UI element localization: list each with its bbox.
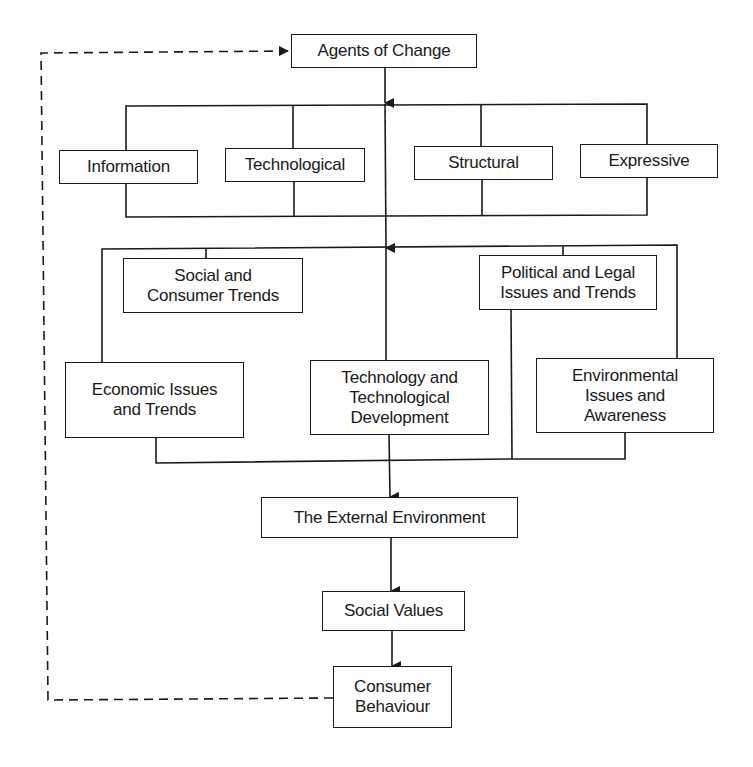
node-technology-development: Technology and Technological Development [310,360,489,435]
arrow-factors-to-external [389,434,390,497]
node-social-values: Social Values [322,591,465,631]
types-bracket-top [126,104,647,150]
arrow-types-to-factors [385,104,386,248]
node-social-consumer-trends: Social and Consumer Trends [123,258,303,313]
node-economic: Economic Issues and Trends [65,362,244,438]
diagram-canvas: Agents of Change Information Technologic… [0,0,753,767]
node-agents-of-change: Agents of Change [291,34,477,68]
node-consumer-behaviour: Consumer Behaviour [333,666,452,728]
node-environmental: Environmental Issues and Awareness [536,358,714,433]
node-structural: Structural [414,146,553,180]
node-external-environment: The External Environment [261,497,518,538]
node-political-legal: Political and Legal Issues and Trends [479,255,657,310]
node-technological: Technological [225,148,365,182]
node-information: Information [59,150,198,184]
node-expressive: Expressive [580,144,718,178]
